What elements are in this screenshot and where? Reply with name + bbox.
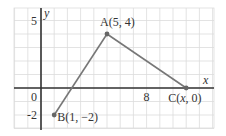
point-label-B: B(1, −2)	[57, 110, 98, 124]
y-axis-label: y	[43, 6, 50, 20]
y-tick-label: 5	[31, 14, 37, 28]
x-tick-label: 0	[31, 90, 37, 104]
x-tick-label: 8	[144, 90, 150, 104]
point-B	[52, 113, 57, 118]
tick-labels: 085-2	[27, 14, 150, 123]
point-C	[184, 86, 189, 91]
coordinate-plane: x y 085-2 A(5, 4)B(1, −2)C(x, 0)	[0, 0, 226, 136]
point-A	[105, 32, 110, 37]
y-tick-label: -2	[27, 108, 37, 122]
point-label-C: C(x, 0)	[168, 91, 201, 105]
x-axis-label: x	[202, 73, 209, 87]
points: A(5, 4)B(1, −2)C(x, 0)	[52, 15, 202, 124]
point-label-A: A(5, 4)	[100, 15, 135, 29]
